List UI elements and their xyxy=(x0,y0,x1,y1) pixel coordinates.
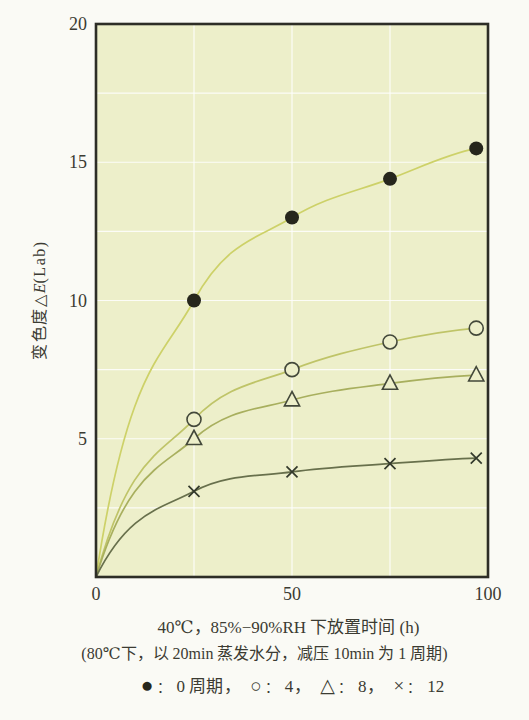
data-point-open-circle xyxy=(383,335,397,349)
legend-separator: ， xyxy=(367,672,384,697)
data-point-open-circle xyxy=(285,363,299,377)
legend-triangle-icon: △ xyxy=(320,676,335,695)
legend-label-1: 4 xyxy=(285,677,294,697)
data-point-filled-circle xyxy=(285,211,299,225)
e-symbol: E xyxy=(31,283,48,293)
legend-colon: ： xyxy=(338,676,352,696)
chart-figure: 5101520050100 变色度△E(Lab) 40℃，85%−90%RH 下… xyxy=(0,0,529,720)
legend: ●：0 周期， ○：4， △：8， ×：12 xyxy=(56,672,529,697)
legend-colon: ： xyxy=(265,676,279,696)
legend-label-0: 0 周期 xyxy=(177,672,224,697)
data-point-open-circle xyxy=(187,412,201,426)
x-tick-label: 50 xyxy=(283,584,301,604)
data-point-open-circle xyxy=(469,321,483,335)
legend-separator: ， xyxy=(294,672,311,697)
y-axis-title-suffix: (Lab) xyxy=(31,240,48,283)
legend-label-3: 12 xyxy=(427,677,444,697)
legend-open-circle-icon: ○ xyxy=(250,676,261,695)
x-axis-title: 40℃，85%−90%RH 下放置时间 (h) xyxy=(48,613,529,638)
y-tick-label: 10 xyxy=(69,291,87,311)
legend-filled-circle-icon: ● xyxy=(141,675,154,696)
delta-symbol: △ xyxy=(31,293,48,307)
y-axis-title: 变色度△E(Lab) xyxy=(26,240,50,359)
x-tick-label: 100 xyxy=(475,584,502,604)
legend-separator: ， xyxy=(224,672,241,697)
x-tick-label: 0 xyxy=(92,584,101,604)
data-point-filled-circle xyxy=(187,294,201,308)
data-point-filled-circle xyxy=(469,141,483,155)
y-tick-label: 20 xyxy=(69,14,87,34)
chart-plot-area: 5101520050100 xyxy=(0,0,529,612)
legend-x-icon: × xyxy=(393,676,404,695)
y-tick-label: 5 xyxy=(78,429,87,449)
x-axis-subtitle: (80℃下，以 20min 蒸发水分，减压 10min 为 1 周期) xyxy=(0,640,529,664)
y-tick-label: 15 xyxy=(69,152,87,172)
y-axis-title-prefix: 变色度 xyxy=(31,307,48,360)
legend-colon: ： xyxy=(157,676,171,696)
data-point-filled-circle xyxy=(383,172,397,186)
legend-label-2: 8 xyxy=(358,677,367,697)
legend-colon: ： xyxy=(407,676,421,696)
